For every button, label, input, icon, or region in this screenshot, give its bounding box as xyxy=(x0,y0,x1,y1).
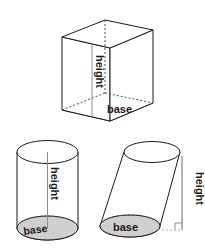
right-angle-marker-icon xyxy=(175,223,182,230)
figure-stage: height base height base xyxy=(0,0,205,251)
rectangular-prism: height base xyxy=(62,20,153,121)
prism-height-label: height xyxy=(94,55,106,88)
oblique-cylinder: height base xyxy=(100,142,205,238)
prism-base-label: base xyxy=(107,103,132,115)
right-cylinder: height base xyxy=(17,141,78,241)
oblique-cylinder-base-label: base xyxy=(113,221,138,233)
geometry-figure: height base height base xyxy=(0,0,205,251)
cylinder-height-label: height xyxy=(49,167,61,200)
oblique-cylinder-top-face xyxy=(124,142,180,163)
oblique-cylinder-height-label: height xyxy=(194,172,205,205)
